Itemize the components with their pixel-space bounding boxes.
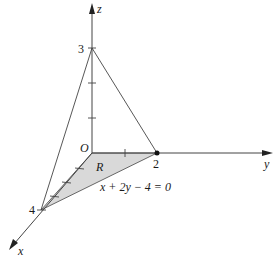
z-axis-label: z [97, 3, 102, 15]
y-intercept-label: 2 [153, 158, 159, 170]
diagram-canvas: z y x 3 2 4 O R x + 2y − 4 = 0 [0, 0, 275, 259]
x-axis-label: x [18, 245, 23, 257]
x-axis [14, 153, 92, 244]
line-equation-label: x + 2y − 4 = 0 [100, 181, 171, 193]
y-axis-label: y [264, 158, 269, 170]
x-intercept-label: 4 [29, 204, 35, 216]
y-intercept-point [155, 151, 160, 156]
origin-label: O [80, 142, 89, 154]
diagram-svg [0, 0, 275, 259]
z-axis-arrow-icon [89, 3, 95, 14]
y-axis-arrow-icon [262, 150, 273, 156]
region-label: R [96, 161, 103, 173]
z-intercept-label: 3 [78, 43, 84, 55]
edge-z-to-y [92, 48, 157, 153]
